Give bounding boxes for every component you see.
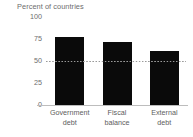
x-tick-label-line2: balance (90, 118, 144, 128)
x-tick-label-fiscal-balance: Fiscal balance (90, 108, 144, 127)
x-axis-labels: Government debt Fiscal balance External … (40, 108, 190, 136)
bar-fiscal-balance[interactable] (103, 42, 132, 105)
x-tick-label-line1: Government (50, 108, 90, 117)
y-tick-label-100: 100 (20, 13, 42, 21)
x-tick-label-government-debt: Government debt (43, 108, 97, 127)
x-tick-label-line2: debt (137, 118, 191, 128)
y-tick-label-50: 50 (20, 57, 42, 65)
x-tick-label-line1: External (151, 108, 177, 117)
y-tick-label-25: 25 (20, 79, 42, 87)
x-axis-line (37, 105, 188, 106)
reference-line-50 (46, 61, 186, 62)
x-tick-label-line2: debt (43, 118, 97, 128)
bar-chart: Percent of countries 100 75 50 25 0 Gove… (0, 0, 193, 137)
x-tick-label-line1: Fiscal (108, 108, 127, 117)
y-tick-label-75: 75 (20, 35, 42, 43)
x-tick-label-external-debt: External debt (137, 108, 191, 127)
bar-external-debt[interactable] (150, 51, 179, 105)
y-axis: 100 75 50 25 0 (18, 0, 42, 137)
bar-government-debt[interactable] (55, 37, 84, 105)
